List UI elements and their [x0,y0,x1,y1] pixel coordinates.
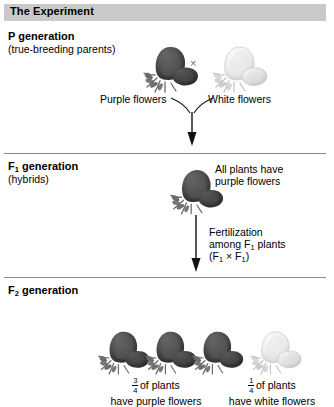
f2-heading-prefix: F [8,284,15,296]
cross-symbol-p: × [190,58,196,69]
fertilization-line-3-open: (F [209,250,219,262]
f2-heading-suffix: generation [19,284,78,296]
f1-heading-prefix: F [8,160,15,172]
f2-white-ratio-line-1: 14of plants [208,378,334,395]
f1-generation-subheading: (hybrids) [8,173,49,185]
fraction-one-quarter: 14 [248,377,254,394]
f1-result-line-1: All plants have [215,163,283,176]
purple-parent-label: Purple flowers [100,93,167,106]
f2-purple-ratio-line-2: have purple flowers [86,395,226,407]
divider-f1 [4,153,326,154]
f1-result-line-2: purple flowers [215,175,280,188]
pea-flower-white-icon [248,325,304,381]
fraction-denominator: 4 [132,387,138,395]
fraction-denominator: 4 [248,387,254,395]
pea-flower-purple-icon [190,325,246,381]
f1-heading-suffix: generation [19,160,78,172]
pea-flower-white-icon [210,40,270,99]
page-title: The Experiment [10,5,94,17]
pea-flower-purple-icon [141,40,201,99]
fraction-numerator: 1 [248,377,254,385]
f2-white-ratio-label: 14of plants have white flowers [208,378,334,407]
f2-white-ratio-line-2: have white flowers [208,395,334,407]
fertilization-line-3-close: ) [246,250,250,262]
f2-generation-heading: F2 generation [8,284,78,299]
f2-heading-sub: 2 [15,289,19,298]
f1-to-f2-arrow [186,215,206,273]
f2-purple-ratio-line-1: 34of plants [86,378,226,395]
fertilization-line-3-times: × F [223,250,241,262]
fertilization-line-3-sub-b: 1 [241,255,245,264]
p-generation-subheading: (true-breeding parents) [8,43,115,55]
fraction-numerator: 3 [132,377,138,385]
f2-purple-ratio-label: 34of plants have purple flowers [86,378,226,407]
fertilization-line-2-sub: 1 [250,243,254,252]
fertilization-line-2-suffix: plants [255,238,286,250]
fertilization-line-1: Fertilization [209,226,263,239]
p-to-f1-arrow [168,96,228,148]
f2-purple-ratio-rest: of plants [140,379,180,391]
f2-white-ratio-rest: of plants [256,379,296,391]
fertilization-line-3: (F1 × F1) [209,250,249,265]
fraction-three-quarters: 34 [132,377,138,394]
fertilization-line-3-sub-a: 1 [219,255,223,264]
p-generation-heading: P generation [8,30,74,43]
fertilization-line-2-prefix: among F [209,238,250,250]
divider-f2 [4,277,326,278]
